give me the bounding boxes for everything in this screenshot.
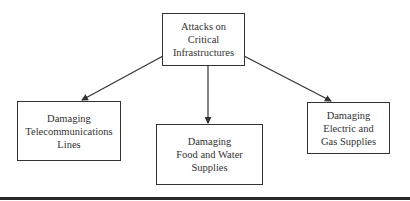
node-label-line: Gas Supplies xyxy=(321,135,376,148)
node-label-line: Damaging xyxy=(25,112,112,125)
node-label-line: Food and Water xyxy=(176,148,243,161)
node-label-line: Infrastructures xyxy=(173,46,234,59)
node-label-line: Critical xyxy=(173,33,234,46)
node-label-line: Lines xyxy=(25,138,112,151)
node-attacks-on-critical-infrastructures: Attacks on Critical Infrastructures xyxy=(162,13,245,66)
node-label-line: Supplies xyxy=(176,161,243,174)
arrow-root-to-telecommunications xyxy=(82,56,163,100)
arrow-root-to-electric-gas xyxy=(244,56,331,101)
node-label-line: Telecommunications xyxy=(25,125,112,138)
node-label-line: Damaging xyxy=(176,135,243,148)
node-damaging-electric-gas-supplies: Damaging Electric and Gas Supplies xyxy=(307,102,390,154)
node-label-line: Electric and xyxy=(321,122,376,135)
node-damaging-food-water-supplies: Damaging Food and Water Supplies xyxy=(156,124,263,185)
node-label-line: Attacks on xyxy=(173,20,234,33)
node-damaging-telecommunications-lines: Damaging Telecommunications Lines xyxy=(17,101,121,161)
node-label-line: Damaging xyxy=(321,109,376,122)
bottom-rule-divider xyxy=(0,197,410,200)
